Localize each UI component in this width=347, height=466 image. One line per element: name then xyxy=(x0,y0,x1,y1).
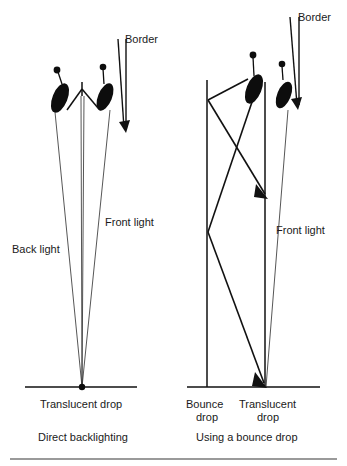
back-light-label: Back light xyxy=(12,243,60,255)
bounce-drop-label-line1: Bounce xyxy=(186,398,223,410)
panel-direct-backlighting: Border xyxy=(12,33,158,443)
front-light-ray-right xyxy=(266,110,288,387)
bounce-ray-path-secondary xyxy=(208,102,267,388)
translucent-drop-label-line2: drop xyxy=(257,411,279,423)
bounce-ray-path xyxy=(208,79,268,199)
front-light-fixture-right xyxy=(272,61,295,111)
front-light-label-right: Front light xyxy=(276,224,325,236)
border-flag xyxy=(118,39,130,133)
translucent-drop-label-line1: Translucent xyxy=(239,398,296,410)
translucent-drop-label-left: Translucent drop xyxy=(40,398,122,410)
diagram-canvas: Border xyxy=(0,0,347,466)
bounce-drop-label-line2: drop xyxy=(196,411,218,423)
lighting-diagram-figure: Border xyxy=(0,0,347,466)
panel-bounce-drop: Border xyxy=(186,11,331,443)
caption-bounce-drop: Using a bounce drop xyxy=(196,431,298,443)
front-light-label-left: Front light xyxy=(105,216,154,228)
border-flag-right xyxy=(290,17,302,110)
bounce-light-fixture xyxy=(241,52,267,107)
translucent-drop-surface xyxy=(25,384,137,390)
border-label-left: Border xyxy=(125,33,158,45)
light-rays-left xyxy=(55,96,110,387)
caption-direct-backlighting: Direct backlighting xyxy=(38,431,128,443)
fixture-support-linkage xyxy=(67,82,98,110)
border-label-right: Border xyxy=(298,11,331,23)
